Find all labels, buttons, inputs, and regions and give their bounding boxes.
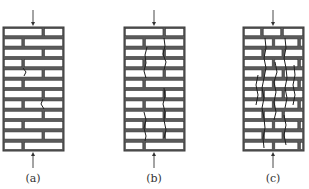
wall-panel-b xyxy=(124,27,185,151)
panel-label-b: (b) xyxy=(134,172,174,185)
top-load-arrow-icon xyxy=(152,10,156,26)
top-load-arrow-icon xyxy=(271,10,275,26)
bottom-load-arrow-icon xyxy=(152,152,156,168)
masonry-compression-figure xyxy=(0,0,309,189)
wall-panel-a xyxy=(3,27,64,151)
bottom-load-arrow-icon xyxy=(271,152,275,168)
bottom-load-arrow-icon xyxy=(31,152,35,168)
wall-panel-c xyxy=(243,27,304,151)
top-load-arrow-icon xyxy=(31,10,35,26)
panel-label-a: (a) xyxy=(13,172,53,185)
panel-label-c: (c) xyxy=(253,172,293,185)
